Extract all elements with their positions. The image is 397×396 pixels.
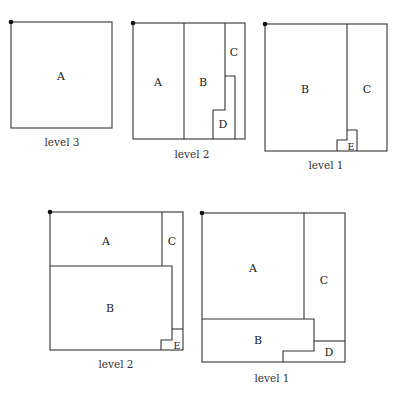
diagram-level2-top: A B C D level 2 <box>131 21 245 160</box>
origin-dot <box>9 20 14 25</box>
region-label: A <box>248 262 258 275</box>
region-label: C <box>168 235 176 248</box>
diagram-caption: level 2 <box>174 148 209 160</box>
region-label: C <box>320 274 328 287</box>
region-label: D <box>219 118 228 131</box>
region-label: D <box>325 346 334 359</box>
diagram-level2-bottom: A C B E level 2 <box>48 210 183 370</box>
outer-boundary <box>202 213 345 362</box>
origin-dot <box>200 211 205 216</box>
region-label: B <box>106 302 114 315</box>
origin-dot <box>263 22 268 27</box>
diagram-level1-top: B C E level 1 <box>263 22 387 171</box>
region-label: B <box>301 83 309 96</box>
origin-dot <box>48 210 53 215</box>
outer-boundary <box>50 212 183 350</box>
region-label: E <box>174 340 181 351</box>
diagram-caption: level 1 <box>308 159 343 171</box>
diagram-caption: level 2 <box>98 358 133 370</box>
region-label: A <box>101 235 111 248</box>
region-label: B <box>199 76 207 89</box>
region-label: B <box>254 334 262 347</box>
diagram-level1-bottom: A C B D level 1 <box>200 211 345 384</box>
treemap-levels-figure: A level 3 A B C D level 2 B C E level 1 … <box>0 0 397 396</box>
region-label: E <box>348 141 355 152</box>
region-label: C <box>230 46 238 59</box>
region-label: A <box>56 70 66 83</box>
diagram-caption: level 1 <box>254 372 289 384</box>
outer-boundary <box>133 23 245 139</box>
divider <box>337 24 347 151</box>
region-label: A <box>153 76 163 89</box>
region-label: C <box>363 83 371 96</box>
diagram-level3: A level 3 <box>9 20 112 148</box>
diagram-caption: level 3 <box>44 136 79 148</box>
origin-dot <box>131 21 136 26</box>
